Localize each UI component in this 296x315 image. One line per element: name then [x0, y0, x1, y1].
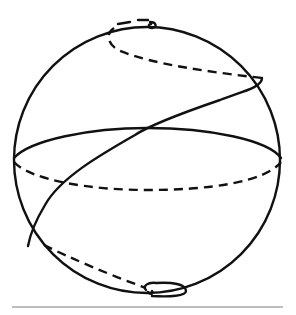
loxodrome-front [28, 78, 262, 246]
sphere-loxodrome-diagram [0, 0, 296, 315]
equator-front [14, 128, 281, 158]
equator-back [14, 162, 281, 190]
sphere-outline [14, 27, 280, 293]
loxodrome-north-back [109, 28, 262, 78]
